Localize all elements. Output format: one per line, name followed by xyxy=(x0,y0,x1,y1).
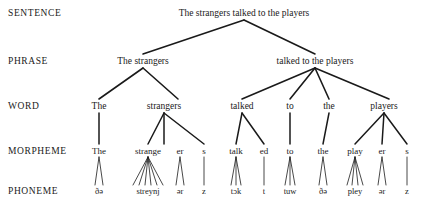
tree-node-phrase: talked to the players xyxy=(277,56,354,66)
tree-node-sentence: The strangers talked to the players xyxy=(179,8,310,18)
level-label-sentence: SENTENCE xyxy=(8,8,61,18)
tree-edges-layer xyxy=(0,0,426,206)
tree-edge-phrase-to-word xyxy=(99,68,143,99)
tree-node-phrase: The strangers xyxy=(117,56,168,66)
tree-node-morpheme: er xyxy=(177,146,184,156)
tree-node-morpheme: the xyxy=(318,146,329,156)
linguistic-hierarchy-diagram: SENTENCEPHRASEWORDMORPHEMEPHONEME The st… xyxy=(0,0,426,206)
tree-node-word: players xyxy=(370,101,397,111)
tree-edge-word-to-morpheme xyxy=(242,113,264,144)
tree-edge-word-to-morpheme xyxy=(236,113,242,144)
tree-node-morpheme: talk xyxy=(229,146,243,156)
tree-edge-morpheme-to-phoneme xyxy=(382,157,386,185)
tree-edge-word-to-morpheme xyxy=(382,113,384,144)
level-label-phoneme: PHONEME xyxy=(8,186,58,196)
tree-edge-morpheme-to-phoneme xyxy=(290,157,295,185)
tree-edge-word-to-morpheme xyxy=(148,113,164,144)
tree-node-word: talked xyxy=(230,101,253,111)
tree-edge-morpheme-to-phoneme xyxy=(231,157,236,185)
tree-edge-morpheme-to-phoneme xyxy=(176,157,180,185)
tree-edge-morpheme-to-phoneme xyxy=(99,157,103,185)
tree-node-phoneme: ər xyxy=(379,186,386,196)
level-label-word: WORD xyxy=(8,101,39,111)
tree-node-phoneme: tɔk xyxy=(231,186,241,196)
tree-node-morpheme: ed xyxy=(260,146,269,156)
tree-edge-morpheme-to-phoneme xyxy=(180,157,184,185)
tree-node-morpheme: play xyxy=(347,146,363,156)
level-label-phrase: PHRASE xyxy=(8,56,48,66)
tree-edge-word-to-morpheme xyxy=(384,113,407,144)
tree-node-phoneme: streynj xyxy=(136,186,159,196)
tree-node-morpheme: er xyxy=(379,146,386,156)
tree-edge-phrase-to-word xyxy=(143,68,178,99)
tree-node-word: the xyxy=(323,101,335,111)
tree-edge-morpheme-to-phoneme xyxy=(319,157,323,185)
tree-edge-phrase-to-word xyxy=(242,68,315,99)
tree-node-phoneme: t xyxy=(263,186,265,196)
tree-node-phoneme: ðə xyxy=(319,186,327,196)
tree-edge-word-to-morpheme xyxy=(164,113,204,144)
tree-node-word: to xyxy=(286,101,293,111)
tree-node-phoneme: z xyxy=(405,186,409,196)
tree-node-morpheme: to xyxy=(286,146,293,156)
tree-node-morpheme: The xyxy=(92,146,106,156)
tree-node-word: strangers xyxy=(147,101,181,111)
tree-node-phoneme: tuw xyxy=(284,186,297,196)
tree-node-phoneme: pley xyxy=(348,186,363,196)
tree-edge-word-to-morpheme xyxy=(355,113,384,144)
tree-node-phoneme: ər xyxy=(177,186,184,196)
tree-node-morpheme: s xyxy=(405,146,409,156)
tree-edge-morpheme-to-phoneme xyxy=(378,157,382,185)
level-label-morpheme: MORPHEME xyxy=(8,146,67,156)
tree-edge-sentence-to-phrase xyxy=(143,20,244,54)
tree-node-phoneme: z xyxy=(202,186,206,196)
tree-node-phoneme: ðə xyxy=(95,186,103,196)
tree-node-morpheme: s xyxy=(202,146,206,156)
tree-node-word: The xyxy=(92,101,107,111)
tree-node-morpheme: strange xyxy=(135,146,161,156)
tree-edge-morpheme-to-phoneme xyxy=(285,157,290,185)
tree-edge-morpheme-to-phoneme xyxy=(236,157,241,185)
tree-edge-morpheme-to-phoneme xyxy=(95,157,99,185)
tree-edge-sentence-to-phrase xyxy=(244,20,315,54)
tree-edge-morpheme-to-phoneme xyxy=(323,157,327,185)
tree-edge-word-to-morpheme xyxy=(323,113,329,144)
